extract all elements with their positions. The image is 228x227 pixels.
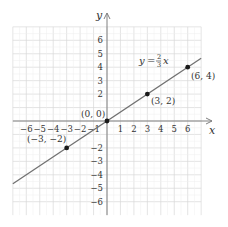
point-label-3-2: (3, 2) [151, 96, 175, 106]
y-tick-label: 5 [98, 49, 103, 59]
y-tick-label: 3 [98, 76, 103, 86]
data-point-marker [145, 92, 150, 97]
x-tick-label: 4 [158, 124, 163, 134]
coordinate-plane: −6−5−4−3−2−1123456−6−5−4−3−223456 x y y … [0, 0, 228, 227]
data-point-marker [64, 146, 69, 151]
x-axis-label: x [209, 124, 216, 137]
equation-x: x [163, 55, 169, 66]
x-tick-label: 3 [145, 124, 150, 134]
equation-denominator: 3 [157, 61, 161, 69]
y-tick-label: −2 [90, 143, 103, 153]
equation-label: y = 2 3 x [138, 53, 169, 69]
x-tick-label: −4 [47, 124, 60, 134]
y-tick-label: −3 [90, 156, 103, 166]
y-tick-label: −5 [90, 183, 103, 193]
x-tick-label: −3 [60, 124, 73, 134]
equation-numerator: 2 [157, 53, 161, 61]
data-point-marker [185, 65, 190, 70]
y-tick-label: 6 [98, 35, 103, 45]
equation-y: y [138, 55, 145, 66]
equation-equals: = [147, 55, 155, 66]
x-tick-label: −6 [20, 124, 33, 134]
x-tick-label: 5 [172, 124, 177, 134]
data-point-marker [105, 119, 110, 124]
y-tick-label: −6 [90, 197, 103, 207]
x-tick-label: −2 [74, 124, 87, 134]
x-tick-label: 2 [131, 124, 136, 134]
y-tick-label: 4 [98, 62, 103, 72]
y-tick-label: 2 [98, 89, 103, 99]
y-tick-label: −4 [90, 170, 103, 180]
y-axis-label: y [95, 9, 103, 22]
point-label-neg3-neg2: (−3, −2) [27, 134, 66, 144]
x-tick-label: −5 [33, 124, 46, 134]
x-tick-label: 1 [118, 124, 123, 134]
point-label-origin: (0, 0) [81, 109, 105, 119]
point-label-6-4: (6, 4) [191, 71, 215, 81]
x-tick-label: 6 [185, 124, 190, 134]
